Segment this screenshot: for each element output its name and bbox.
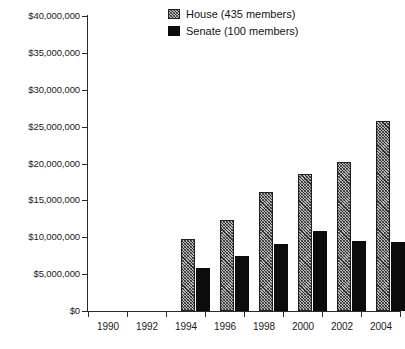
chart-legend: House (435 members) Senate (100 members) [168, 6, 299, 40]
bar-house-1998 [337, 162, 351, 311]
x-tick-label: 2004 [359, 321, 403, 333]
bar-chart: $0$5,000,000$10,000,000$15,000,000$20,00… [0, 0, 405, 349]
legend-swatch-house-icon [168, 9, 180, 19]
x-tick-mark [322, 312, 323, 317]
legend-label-senate: Senate (100 members) [186, 25, 299, 37]
x-tick-label: 1990 [86, 321, 130, 333]
y-tick-mark [82, 200, 87, 201]
y-tick-label: $15,000,000 [2, 195, 80, 205]
bar-senate-1996 [313, 231, 327, 311]
y-tick-mark [82, 164, 87, 165]
bar-senate-1994 [274, 244, 288, 311]
x-tick-label: 1992 [125, 321, 169, 333]
x-tick-label: 2002 [320, 321, 364, 333]
bar-house-1992 [220, 220, 234, 311]
y-tick-mark [82, 16, 87, 17]
legend-label-house: House (435 members) [186, 8, 295, 20]
x-tick-mark [283, 312, 284, 317]
y-tick-mark [82, 90, 87, 91]
legend-item-house: House (435 members) [168, 6, 299, 21]
y-tick-label: $35,000,000 [2, 48, 80, 58]
y-tick-mark [82, 53, 87, 54]
y-tick-mark [82, 311, 87, 312]
x-tick-mark [166, 312, 167, 317]
bar-house-1990 [181, 239, 195, 311]
legend-swatch-senate-icon [168, 26, 180, 36]
x-tick-label: 1996 [203, 321, 247, 333]
y-tick-label: $5,000,000 [2, 269, 80, 279]
y-tick-label: $25,000,000 [2, 122, 80, 132]
bar-house-1996 [298, 174, 312, 311]
y-tick-label: $30,000,000 [2, 85, 80, 95]
x-tick-mark [205, 312, 206, 317]
x-tick-label: 1994 [164, 321, 208, 333]
x-tick-label: 1998 [242, 321, 286, 333]
x-tick-mark [88, 312, 89, 317]
bar-senate-1990 [196, 268, 210, 311]
bar-senate-1998 [352, 241, 366, 311]
y-tick-mark [82, 127, 87, 128]
y-tick-mark [82, 274, 87, 275]
y-tick-label: $20,000,000 [2, 159, 80, 169]
legend-item-senate: Senate (100 members) [168, 23, 299, 38]
bar-senate-2000 [391, 242, 405, 311]
bar-house-2000 [376, 121, 390, 311]
x-tick-mark [127, 312, 128, 317]
x-tick-mark [244, 312, 245, 317]
plot-area [88, 16, 400, 311]
y-tick-label: $0 [2, 306, 80, 316]
bar-senate-1992 [235, 256, 249, 311]
x-tick-label: 2000 [281, 321, 325, 333]
bar-house-1994 [259, 192, 273, 311]
x-tick-mark [400, 312, 401, 317]
y-tick-mark [82, 237, 87, 238]
x-tick-mark [361, 312, 362, 317]
y-tick-label: $40,000,000 [2, 11, 80, 21]
y-tick-label: $10,000,000 [2, 232, 80, 242]
